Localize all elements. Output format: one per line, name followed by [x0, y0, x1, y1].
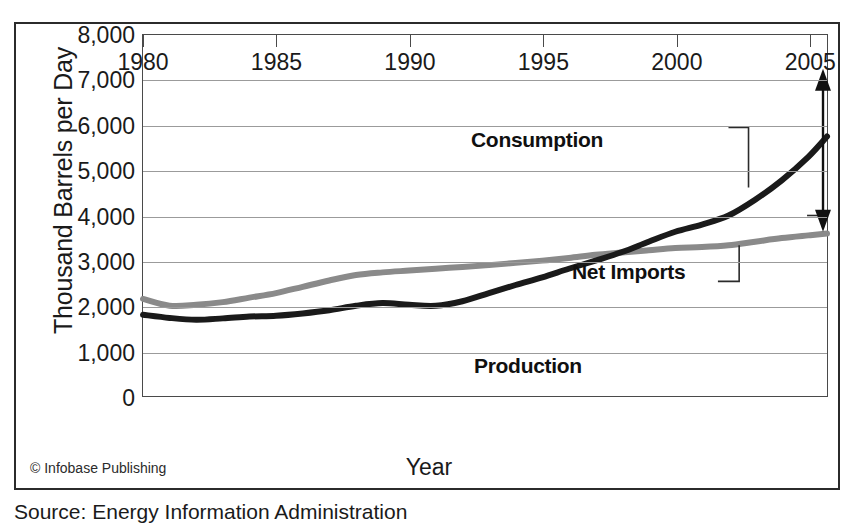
gridline-y-4000 — [143, 217, 827, 218]
y-tick-label-8000: 8,000 — [77, 22, 135, 49]
chart-figure-frame: Thousand Barrels per Day 01,0002,0003,00… — [14, 22, 840, 490]
source-attribution: Source: Energy Information Administratio… — [14, 500, 407, 524]
y-tick-label-0: 0 — [122, 385, 135, 412]
x-tick-label-1995: 1995 — [518, 49, 569, 76]
y-tick-label-3000: 3,000 — [77, 248, 135, 275]
plot-area: 01,0002,0003,0004,0005,0006,0007,0008,00… — [142, 34, 828, 397]
series-plot — [143, 35, 827, 396]
x-tick-mark-1980 — [143, 35, 144, 47]
x-tick-label-1990: 1990 — [384, 49, 435, 76]
x-tick-mark-2000 — [677, 35, 678, 47]
publisher-credit: © Infobase Publishing — [30, 460, 166, 476]
y-tick-label-4000: 4,000 — [77, 203, 135, 230]
annotation-production: Production — [474, 354, 582, 378]
x-tick-label-1985: 1985 — [251, 49, 302, 76]
x-tick-label-2000: 2000 — [651, 49, 702, 76]
x-tick-label-1980: 1980 — [117, 49, 168, 76]
series-line-consumption — [143, 137, 827, 320]
x-tick-label-2005: 2005 — [785, 49, 836, 76]
y-tick-label-1000: 1,000 — [77, 339, 135, 366]
x-tick-mark-2005 — [810, 35, 811, 47]
y-tick-label-2000: 2,000 — [77, 294, 135, 321]
x-tick-mark-1995 — [543, 35, 544, 47]
y-tick-label-6000: 6,000 — [77, 112, 135, 139]
gridline-y-7000 — [143, 80, 827, 81]
gridline-y-2000 — [143, 307, 827, 308]
gridline-y-6000 — [143, 126, 827, 127]
y-tick-label-5000: 5,000 — [77, 158, 135, 185]
leader-line-consumption — [728, 127, 748, 187]
x-tick-mark-1990 — [410, 35, 411, 47]
gridline-y-5000 — [143, 171, 827, 172]
net-imports-arrowhead-down — [815, 210, 831, 232]
annotation-consumption: Consumption — [471, 128, 603, 152]
y-axis-title: Thousand Barrels per Day — [49, 26, 78, 356]
gridline-y-3000 — [143, 262, 827, 263]
annotation-net-imports: Net Imports — [572, 260, 685, 284]
leader-line-production — [718, 245, 739, 281]
x-tick-mark-1985 — [276, 35, 277, 47]
